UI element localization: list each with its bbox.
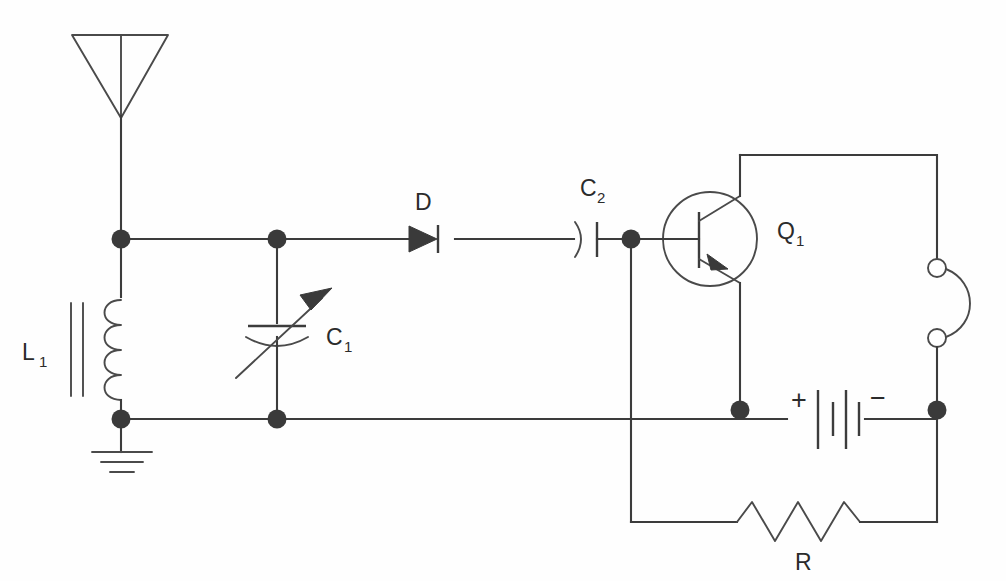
resistor-label-letter: R: [795, 549, 812, 575]
transistor-label-subscript: 1: [796, 232, 804, 249]
diode-d: [409, 225, 438, 253]
antenna-icon: [72, 35, 168, 239]
junction-base-node: [622, 230, 641, 249]
transistor-label-letter: Q: [777, 218, 795, 244]
junction-tuning-top: [268, 230, 287, 249]
inductor-l1: [71, 239, 121, 419]
schematic-canvas: L 1 C 1 D C 2: [0, 0, 1006, 581]
transistor-label: Q 1: [777, 218, 804, 249]
battery-polarity-labels: + −: [791, 383, 886, 415]
base-feedback-wire: [631, 239, 737, 522]
coupling-capacitor-c2: [575, 222, 597, 257]
junction-tuning-bottom: [268, 410, 287, 429]
coupling-capacitor-label-subscript: 2: [597, 189, 605, 206]
inductor-label-letter: L: [22, 339, 35, 365]
earphone-icon: [928, 259, 970, 410]
junction-nodes: [112, 230, 947, 429]
junction-battery-negative: [928, 401, 947, 420]
variable-capacitor-c1: [236, 239, 332, 419]
coupling-capacitor-label: C 2: [580, 175, 605, 206]
transistor-q1: [663, 155, 757, 410]
battery-positive-label: +: [791, 385, 807, 415]
variable-capacitor-label-subscript: 1: [344, 338, 352, 355]
variable-capacitor-label-letter: C: [326, 324, 343, 350]
battery-icon: [818, 390, 859, 449]
coupling-capacitor-label-letter: C: [580, 175, 597, 201]
battery-negative-label: −: [870, 383, 886, 413]
inductor-label: L 1: [22, 339, 47, 370]
resistor-r: [737, 419, 937, 541]
variable-capacitor-label: C 1: [326, 324, 352, 355]
junction-antenna-tank: [112, 230, 131, 249]
collector-earphone-wire: [740, 155, 937, 260]
schematic-diagram: L 1 C 1 D C 2: [0, 0, 1006, 581]
inductor-label-subscript: 1: [39, 353, 47, 370]
junction-emitter-rail: [731, 401, 750, 420]
junction-ground-left: [112, 410, 131, 429]
resistor-label: R: [795, 549, 812, 575]
diode-label-letter: D: [415, 189, 432, 215]
diode-label: D: [415, 189, 432, 215]
